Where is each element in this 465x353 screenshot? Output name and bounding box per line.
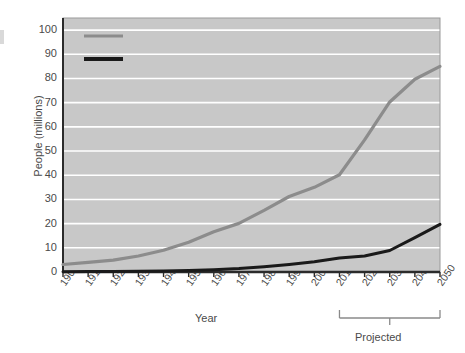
plot-background — [63, 18, 440, 272]
chart-figure: People (millions) Year Projected 0102030… — [0, 0, 465, 353]
chart-plot-area — [0, 0, 465, 353]
